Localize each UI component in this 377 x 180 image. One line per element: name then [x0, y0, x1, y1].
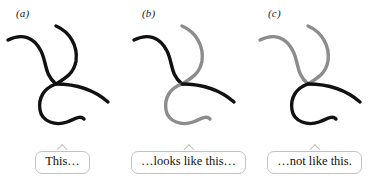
strand-lower-left-hook-b — [166, 84, 210, 124]
speech-bubble-a: This… — [35, 151, 90, 174]
speech-bubble-b: …looks like this… — [131, 151, 246, 174]
bubble-caption-b: …looks like this… — [131, 151, 246, 174]
bubble-caption-a: This… — [35, 151, 90, 174]
bubble-area-c: …not like this. — [252, 151, 377, 174]
strand-lower-right-branch-b — [182, 84, 234, 102]
bubble-area-b: …looks like this… — [126, 151, 251, 174]
panel-a: (a) This… — [0, 0, 125, 180]
strand-lower-left-hook-a — [40, 84, 84, 124]
strand-upper-right-arm-a — [56, 26, 76, 84]
bubble-area-a: This… — [0, 151, 125, 174]
figure-canvas: (a) This… (b) — [0, 0, 377, 180]
strand-lower-left-hook-c — [292, 84, 336, 124]
strand-lower-right-branch-c — [308, 84, 360, 102]
curve-diagram-a — [0, 18, 125, 140]
strand-lower-right-branch-a — [56, 84, 108, 102]
curve-diagram-c — [252, 18, 377, 140]
curve-diagram-b — [126, 18, 251, 140]
strand-upper-right-arm-b — [182, 26, 202, 84]
strand-upper-right-arm-c — [308, 26, 328, 84]
strand-upper-left-arm-a — [8, 37, 56, 84]
strand-upper-left-arm-b — [134, 37, 182, 84]
speech-bubble-c: …not like this. — [267, 151, 362, 174]
panel-b: (b) …looks like this… — [126, 0, 251, 180]
bubble-caption-c: …not like this. — [267, 151, 362, 174]
strand-upper-left-arm-c — [260, 37, 308, 84]
panel-c: (c) …not like this. — [252, 0, 377, 180]
